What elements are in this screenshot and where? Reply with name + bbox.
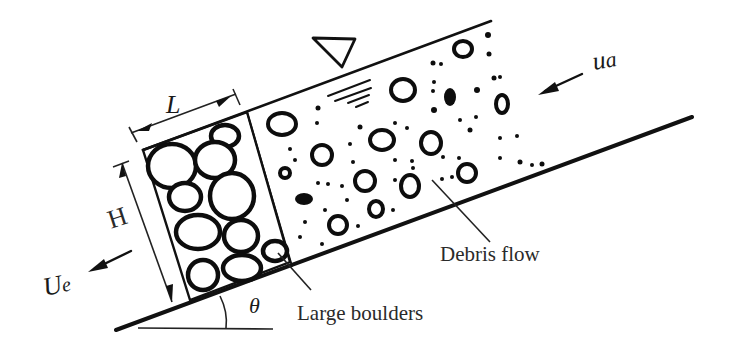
horizontal-reference-line: [138, 328, 273, 329]
large-boulders-label: Large boulders: [297, 301, 423, 325]
length-label: L: [165, 90, 180, 119]
debris-flow-label: Debris flow: [440, 242, 541, 266]
debris-pebbles: [268, 41, 508, 234]
exit-velocity-arrow: [88, 251, 131, 272]
water-surface-triangle-icon: [313, 38, 371, 107]
debris-flow-diagram: L H ua Ue θ Large boulders Debris flow: [0, 0, 731, 354]
approach-velocity-arrow: [538, 74, 582, 95]
approach-velocity-label: ua: [590, 43, 619, 76]
height-label: H: [104, 201, 131, 234]
angle-arc: [220, 296, 226, 328]
angle-label: θ: [249, 293, 260, 318]
exit-velocity-label: Ue: [40, 268, 73, 302]
large-boulders: [148, 125, 287, 290]
debris-particles: [288, 32, 545, 246]
